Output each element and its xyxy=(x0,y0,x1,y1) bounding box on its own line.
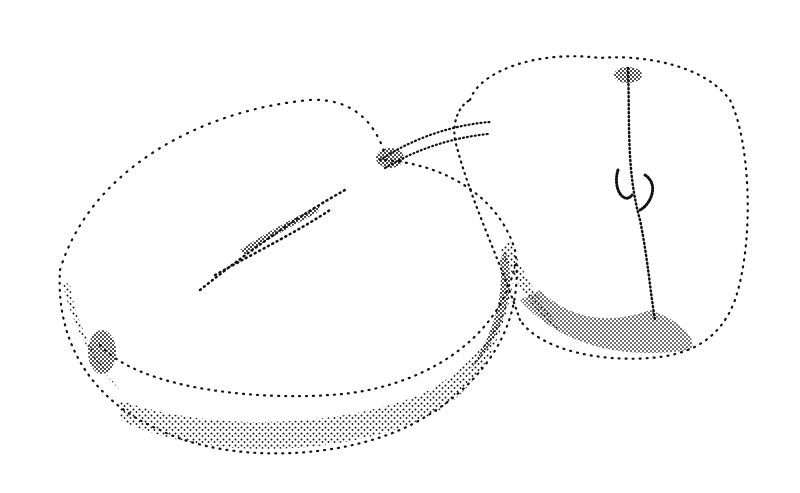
right-fruit-half xyxy=(380,56,748,359)
stipple-illustration xyxy=(0,0,800,493)
left-fruit-half xyxy=(60,100,517,454)
illustration-canvas: Stipple ink illustration of two halved p… xyxy=(0,0,800,493)
